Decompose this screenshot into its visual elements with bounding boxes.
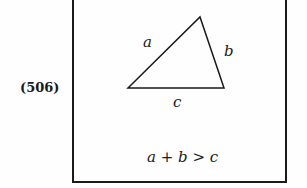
ineq-a: a <box>147 148 156 166</box>
side-label-b: b <box>224 42 234 60</box>
triangle-inequality: a + b > c <box>147 148 218 166</box>
ineq-b: b <box>178 148 188 166</box>
ineq-plus: + <box>161 148 174 166</box>
side-label-c: c <box>173 93 181 111</box>
ineq-gt: > <box>192 148 205 166</box>
ineq-c: c <box>210 148 218 166</box>
side-label-a: a <box>143 33 152 51</box>
triangle <box>128 17 224 88</box>
